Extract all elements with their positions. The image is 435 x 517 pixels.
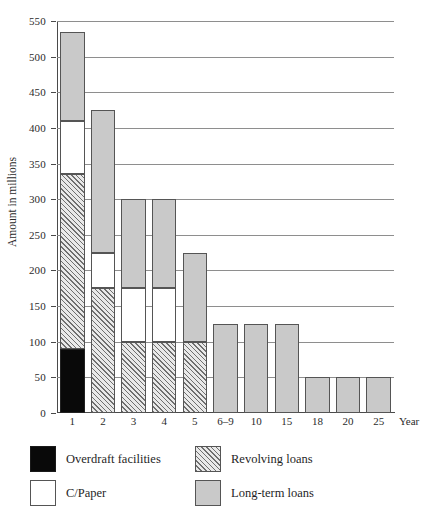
y-tick-mark (51, 377, 56, 378)
y-tick-mark (51, 199, 56, 200)
x-axis-tick-labels: 123456–91015182025 (57, 415, 395, 431)
bar-segment-cpaper (91, 253, 116, 289)
y-tick-mark (51, 413, 56, 414)
y-tick-label: 50 (12, 371, 46, 383)
bar-segment-revolving (121, 342, 146, 413)
x-tick-label: 4 (161, 415, 167, 427)
y-tick-mark (51, 306, 56, 307)
bar-segment-cpaper (152, 288, 177, 341)
legend-label: Long-term loans (231, 486, 314, 501)
legend-item: Long-term loans (195, 480, 314, 506)
bar-segment-revolving (183, 342, 208, 413)
x-tick-label: 6–9 (217, 415, 234, 427)
y-tick-label: 150 (12, 300, 46, 312)
y-tick-mark (51, 57, 56, 58)
x-axis-title: Year (399, 415, 419, 427)
x-tick-label: 5 (192, 415, 198, 427)
legend-swatch-longterm (195, 480, 221, 506)
bar-segment-longterm (336, 377, 361, 413)
bar-segment-longterm (213, 324, 238, 413)
y-tick-label: 100 (12, 336, 46, 348)
bar-segment-longterm (121, 199, 146, 288)
plot-area (57, 21, 394, 413)
y-tick-mark (51, 92, 56, 93)
bar-segment-longterm (60, 32, 85, 121)
bar-group (213, 21, 238, 413)
bar-segment-revolving (152, 342, 177, 413)
legend-swatch-overdraft (30, 446, 56, 472)
bar-segment-overdraft (60, 349, 85, 413)
bar-segment-longterm (275, 324, 300, 413)
x-tick-label: 15 (281, 415, 292, 427)
bar-group (60, 21, 85, 413)
y-tick-mark (51, 164, 56, 165)
x-tick-label: 20 (343, 415, 354, 427)
bar-segment-cpaper (60, 121, 85, 174)
bar-segment-cpaper (121, 288, 146, 341)
y-tick-label: 0 (12, 407, 46, 419)
legend-swatch-cpaper (30, 480, 56, 506)
y-tick-mark (51, 270, 56, 271)
bar-series-container (57, 21, 394, 413)
bar-segment-revolving (91, 288, 116, 413)
bar-segment-longterm (91, 110, 116, 253)
bar-group (336, 21, 361, 413)
x-tick-label: 1 (70, 415, 76, 427)
y-tick-mark (51, 128, 56, 129)
x-tick-label: 18 (312, 415, 323, 427)
bar-group (183, 21, 208, 413)
y-tick-mark (51, 21, 56, 22)
x-tick-label: 3 (131, 415, 137, 427)
bar-segment-longterm (305, 377, 330, 413)
x-tick-label: 25 (373, 415, 384, 427)
chart-legend: Overdraft facilitiesRevolving loansC/Pap… (30, 446, 360, 508)
bar-group (121, 21, 146, 413)
y-tick-mark (51, 342, 56, 343)
bar-group (305, 21, 330, 413)
bar-group (275, 21, 300, 413)
clipped-header-text (120, 0, 250, 4)
y-tick-label: 450 (12, 86, 46, 98)
legend-label: Overdraft facilities (66, 452, 161, 467)
stacked-bar-chart: 050100150200250300350400450500550 Amount… (0, 0, 435, 517)
y-tick-label: 500 (12, 51, 46, 63)
legend-item: Revolving loans (195, 446, 313, 472)
bar-segment-longterm (183, 253, 208, 342)
bar-group (152, 21, 177, 413)
legend-swatch-revolving (195, 446, 221, 472)
bar-group (244, 21, 269, 413)
bar-segment-longterm (366, 377, 391, 413)
x-tick-label: 2 (100, 415, 106, 427)
bar-segment-longterm (244, 324, 269, 413)
legend-item: Overdraft facilities (30, 446, 161, 472)
legend-label: Revolving loans (231, 452, 313, 467)
bar-group (366, 21, 391, 413)
legend-label: C/Paper (66, 486, 106, 501)
bar-segment-revolving (60, 174, 85, 349)
y-tick-mark (51, 235, 56, 236)
x-tick-label: 10 (251, 415, 262, 427)
y-axis-title: Amount in millions (6, 112, 18, 292)
bar-segment-longterm (152, 199, 177, 288)
legend-item: C/Paper (30, 480, 106, 506)
bar-group (91, 21, 116, 413)
y-tick-label: 550 (12, 15, 46, 27)
